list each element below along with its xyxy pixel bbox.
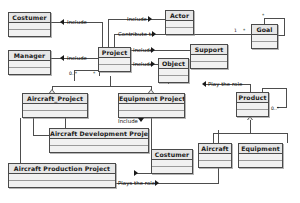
class-attributes-compartment	[9, 174, 115, 181]
arrowhead-include-manager-icon	[60, 55, 64, 61]
class-name-aircraft-development-project: Aircraft Development Project	[50, 129, 148, 139]
multiplicity-goal-self-top: *	[262, 13, 264, 18]
class-name-object: Object	[159, 59, 188, 69]
label-plays-the-role: Plays the role	[118, 180, 155, 186]
edge-product-bus-riser	[250, 120, 251, 134]
class-attributes-compartment	[99, 58, 130, 65]
multiplicity-goal-left-star: *	[243, 28, 245, 33]
label-contribute-to: Contribute to	[118, 31, 154, 37]
arrowhead-include-actor-icon	[148, 16, 152, 22]
class-box-project[interactable]: Project	[98, 47, 131, 72]
class-attributes-compartment	[239, 154, 282, 161]
edge-goal-self-v2	[284, 18, 285, 35]
label-include-support: Include	[133, 47, 153, 53]
label-play-the-role: Play the role	[208, 81, 242, 87]
class-box-goal[interactable]: Goal	[251, 24, 278, 49]
class-name-project: Project	[99, 48, 130, 58]
class-attributes-compartment	[191, 55, 227, 62]
class-box-manager[interactable]: Manager	[8, 50, 51, 75]
class-operations-compartment	[159, 76, 188, 82]
class-name-aircraft: Aircraft	[199, 144, 231, 154]
class-operations-compartment	[199, 161, 231, 167]
class-name-goal: Goal	[252, 25, 277, 35]
label-include-actor: Include	[127, 16, 147, 22]
edge-goal-self-h1	[264, 18, 284, 19]
edge-product-bus	[213, 133, 288, 134]
class-name-aircraft-production-project: Aircraft Production Project	[9, 164, 115, 174]
edge-equipment-riser	[287, 133, 288, 143]
edge-aircraft-riser	[213, 133, 214, 143]
edge-acft-dev-riser	[33, 118, 34, 136]
edge-project-self-h	[74, 70, 100, 71]
class-name-product: Product	[237, 93, 268, 103]
class-box-equipment-project[interactable]: Equipment Project	[118, 93, 185, 118]
edge-acft-prod-riser	[20, 118, 21, 163]
edge-acft-dev-riser2	[65, 118, 66, 128]
class-operations-compartment	[23, 111, 87, 117]
edge-play-role-drop	[250, 84, 251, 92]
edge-eq-costumer-v	[151, 115, 152, 149]
edge-project-bus-riser	[110, 76, 111, 86]
class-operations-compartment	[152, 167, 192, 173]
class-name-actor: Actor	[166, 11, 193, 21]
class-operations-compartment	[9, 30, 50, 36]
class-box-actor[interactable]: Actor	[165, 10, 194, 35]
edge-product-self-h1	[262, 88, 286, 89]
class-operations-compartment	[9, 181, 115, 187]
class-name-costumer-bottom: Costumer	[152, 150, 192, 160]
multiplicity-product-self: 0..*	[271, 106, 279, 111]
class-box-object[interactable]: Object	[158, 58, 189, 83]
class-box-product[interactable]: Product	[236, 92, 269, 117]
arrowhead-costumer-bottom-left-icon	[134, 170, 138, 176]
class-operations-compartment	[166, 28, 193, 34]
class-operations-compartment	[191, 62, 227, 68]
class-attributes-compartment	[159, 69, 188, 76]
arrowhead-plays-the-role-icon	[155, 180, 159, 186]
label-include-object: Include	[133, 61, 153, 67]
multiplicity-project-self-left: 0..*	[69, 71, 77, 76]
class-name-costumer-top: Costumer	[9, 13, 50, 23]
class-operations-compartment	[50, 146, 148, 152]
class-attributes-compartment	[152, 160, 192, 167]
class-name-equipment-project: Equipment Project	[119, 94, 184, 104]
class-attributes-compartment	[199, 154, 231, 161]
class-attributes-compartment	[9, 23, 50, 30]
label-include-manager: Include	[67, 55, 87, 61]
class-box-costumer-top[interactable]: Costumer	[8, 12, 51, 37]
class-box-equipment[interactable]: Equipment	[238, 143, 283, 168]
class-operations-compartment	[119, 111, 184, 117]
edge-acft-dev-h	[33, 135, 49, 136]
class-box-support[interactable]: Support	[190, 44, 228, 69]
class-operations-compartment	[99, 65, 130, 71]
class-attributes-compartment	[166, 21, 193, 28]
class-name-support: Support	[191, 45, 227, 55]
class-attributes-compartment	[252, 35, 277, 42]
class-operations-compartment	[252, 42, 277, 48]
arrowhead-play-the-role-icon	[202, 81, 206, 87]
class-box-aircraft[interactable]: Aircraft	[198, 143, 232, 168]
class-box-aircraft-development-project[interactable]: Aircraft Development Project	[49, 128, 149, 153]
edge-product-self-v2	[286, 88, 287, 107]
class-box-costumer-bottom[interactable]: Costumer	[151, 149, 193, 174]
class-box-aircraft-production-project[interactable]: Aircraft Production Project	[8, 163, 116, 188]
edge-project-bus	[52, 86, 152, 87]
class-name-equipment: Equipment	[239, 144, 282, 154]
arrowhead-include-costumer-icon	[60, 19, 64, 25]
class-operations-compartment	[237, 110, 268, 116]
class-box-aircraft-project[interactable]: Aircraft_Project	[22, 93, 88, 118]
multiplicity-goal-left-one: 1	[234, 28, 237, 33]
class-attributes-compartment	[23, 104, 87, 111]
class-operations-compartment	[9, 68, 50, 74]
class-attributes-compartment	[50, 139, 148, 146]
uml-diagram-canvas: Costumer Manager Project Actor Goal Supp…	[0, 0, 300, 203]
multiplicity-project-self-right: *	[93, 71, 95, 76]
class-attributes-compartment	[237, 103, 268, 110]
edge-costumer-include-drop	[102, 22, 103, 50]
label-include-costumer: Include	[67, 19, 87, 25]
class-name-manager: Manager	[9, 51, 50, 61]
label-include-costumer-bottom: Include	[118, 118, 138, 124]
class-attributes-compartment	[9, 61, 50, 68]
class-name-aircraft-project: Aircraft_Project	[23, 94, 87, 104]
class-operations-compartment	[239, 161, 282, 167]
arrowhead-include-costumer-bottom-icon	[138, 118, 144, 122]
